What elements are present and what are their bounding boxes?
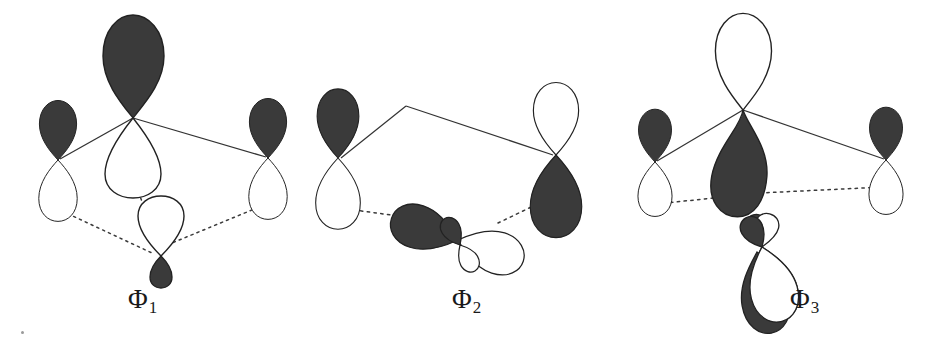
phi2-bonds-solid — [341, 106, 553, 158]
phi3-bonds-solid — [657, 110, 884, 161]
label-phi3-symbol: Φ — [790, 284, 810, 314]
lobe-light-down — [249, 158, 287, 219]
orbital-phi1-left — [39, 100, 77, 221]
diagram-phi2 — [316, 82, 582, 281]
label-phi2-subscript: 2 — [473, 298, 482, 317]
lobe-light-up — [533, 82, 578, 155]
scan-speck — [21, 331, 24, 334]
lobe-dark-up — [639, 109, 672, 162]
lobe-dark-down — [711, 110, 767, 217]
label-phi2-symbol: Φ — [452, 284, 472, 314]
orbital-phi3-left — [638, 109, 672, 216]
lobe-dark-down — [530, 155, 581, 238]
lobe-dark-up — [317, 89, 359, 158]
label-phi3-subscript: 3 — [811, 298, 820, 317]
bond-phi1-right-bottom — [172, 205, 264, 243]
orbital-phi2-left — [316, 89, 361, 229]
phi3-bonds-dotted — [657, 187, 884, 204]
label-phi1-subscript: 1 — [149, 298, 158, 317]
diagram-phi3 — [638, 13, 903, 337]
lobe-dark-up — [103, 15, 164, 118]
lobe-light-up — [138, 196, 184, 256]
orbital-phi1-center-top — [103, 15, 164, 198]
label-phi1: Φ1 — [128, 286, 156, 313]
lobe-light-down — [316, 158, 361, 229]
label-phi1-symbol: Φ — [128, 284, 148, 314]
lobe-dark-up — [870, 107, 903, 160]
phi1-bonds-solid — [60, 118, 266, 159]
bond-phi2-apex-right — [406, 106, 553, 155]
orbital-phi2-right — [530, 82, 581, 237]
lobe-dark-down — [150, 256, 172, 288]
lobe-dark-up — [249, 98, 286, 158]
lobe-light-down — [638, 162, 672, 216]
lobe-light-up — [715, 13, 771, 110]
orbital-phi1-bottom — [138, 196, 184, 288]
lobe-light-down — [105, 118, 161, 198]
label-phi2: Φ2 — [452, 286, 480, 313]
orbital-phi3-right — [869, 107, 903, 214]
orbital-phi3-center-upper — [711, 13, 772, 216]
bond-phi3-center-right — [760, 187, 884, 193]
orbital-figure: Φ1 Φ2 Φ3 — [0, 0, 952, 346]
diagram-phi1 — [39, 15, 287, 288]
lobe-light-down — [39, 160, 77, 221]
label-phi3: Φ3 — [790, 286, 818, 313]
orbital-phi1-right — [249, 98, 287, 219]
lobe-light-down — [869, 160, 903, 214]
lobe-dark-up — [39, 100, 76, 160]
